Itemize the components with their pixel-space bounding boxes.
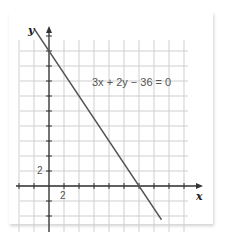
y-axis-arrow-icon <box>46 26 52 33</box>
x-tick-label: 2 <box>60 190 66 201</box>
equation-label: 3x + 2y − 36 = 0 <box>92 76 171 88</box>
equation-line <box>34 29 162 220</box>
x-axis-arrow-icon <box>196 183 203 189</box>
x-axis-label: x <box>196 190 203 203</box>
y-axis-label: y <box>28 24 34 37</box>
y-tick-label: 2 <box>37 165 43 176</box>
